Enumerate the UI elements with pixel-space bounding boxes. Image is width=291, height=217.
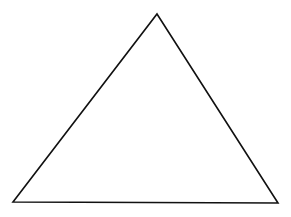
triangle-shape <box>13 14 278 203</box>
diagram-canvas <box>0 0 291 217</box>
